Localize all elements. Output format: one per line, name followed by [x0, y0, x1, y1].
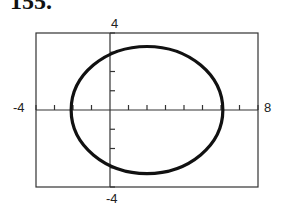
- y-max-label: 4: [111, 16, 118, 31]
- chart: [0, 0, 285, 213]
- x-min-label: -4: [13, 100, 25, 115]
- x-max-label: 8: [264, 100, 271, 115]
- axes: [36, 33, 258, 187]
- y-min-label: -4: [106, 191, 118, 206]
